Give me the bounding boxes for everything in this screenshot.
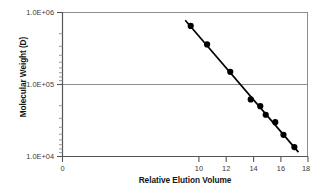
data-point	[188, 23, 194, 29]
x-tick-label-16: 16	[277, 164, 285, 173]
data-point	[291, 144, 297, 150]
data-point	[257, 103, 263, 109]
x-ticks	[63, 157, 309, 163]
x-tick-label-12: 12	[222, 164, 230, 173]
data-point	[280, 132, 286, 138]
plot-area: 1.0E+06 1.0E+05 1.0E+04 0 10 12 14 16 18	[0, 0, 325, 194]
y-tick-label-1e4: 1.0E+04	[26, 152, 54, 161]
x-tick-label-10: 10	[195, 164, 203, 173]
data-point	[248, 96, 254, 102]
data-point	[263, 112, 269, 118]
data-point	[272, 119, 278, 125]
x-tick-label-0: 0	[60, 164, 64, 173]
y-tick-label-1e6: 1.0E+06	[26, 8, 54, 17]
x-tick-label-14: 14	[249, 164, 257, 173]
data-point	[204, 41, 210, 47]
data-point	[227, 69, 233, 75]
x-tick-label-18: 18	[302, 164, 310, 173]
y-tick-label-1e5: 1.0E+05	[26, 80, 54, 89]
chart-container: Molecular Weight (D) Relative Elution Vo…	[0, 0, 325, 194]
